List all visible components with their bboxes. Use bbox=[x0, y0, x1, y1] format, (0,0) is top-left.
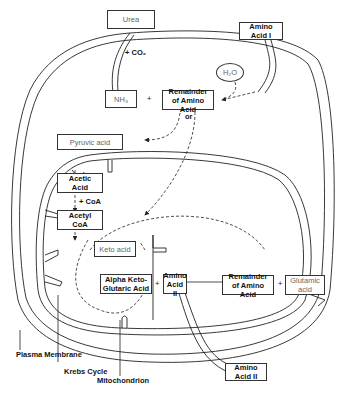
co2-label: + CO₂ bbox=[125, 48, 146, 57]
krebs-cycle-label: Krebs Cycle bbox=[64, 367, 107, 376]
alpha-keto-glutaric-acid-box: Alpha Keto-Glutaric Acid bbox=[100, 274, 152, 294]
amino-acid-2-arrow bbox=[178, 290, 230, 372]
glutamic-acid-box: Glutamicacid bbox=[285, 275, 325, 295]
remainder-bottom-box: Remainderof Amino Acid bbox=[222, 275, 274, 295]
plasma-membrane-label: Plasma Membrane bbox=[16, 350, 82, 359]
pyruvic-acid-box: Pyruvic acid bbox=[57, 134, 123, 150]
nh3-box: NH₃ bbox=[105, 90, 137, 108]
amino-acid-1-arrow bbox=[258, 40, 276, 93]
plus-sign: + bbox=[155, 279, 159, 288]
keto-acid-box: Keto acid bbox=[94, 241, 136, 257]
plus-sign: + bbox=[147, 94, 151, 103]
coa-label: + CoA bbox=[79, 197, 101, 206]
remainder-top-box: Remainderof Amino Acid bbox=[162, 90, 214, 110]
diagram-canvas bbox=[0, 0, 338, 393]
amino-acid-2-box: AminoAcid II bbox=[163, 274, 187, 294]
amino-acid-1-box: AminoAcid I bbox=[239, 22, 283, 40]
urea-box: Urea bbox=[107, 10, 155, 29]
amino-acid-2-outside-box: AminoAcid II bbox=[225, 363, 267, 381]
acetyl-coa-box: AcetylCoA bbox=[57, 210, 103, 230]
or-label: or bbox=[185, 112, 193, 121]
h2o-bubble: H₂O bbox=[216, 63, 244, 82]
acetic-acid-box: AceticAcid bbox=[57, 173, 103, 193]
mitochondrion-label: Mitochondrion bbox=[97, 376, 149, 385]
plus-sign: + bbox=[278, 279, 282, 288]
